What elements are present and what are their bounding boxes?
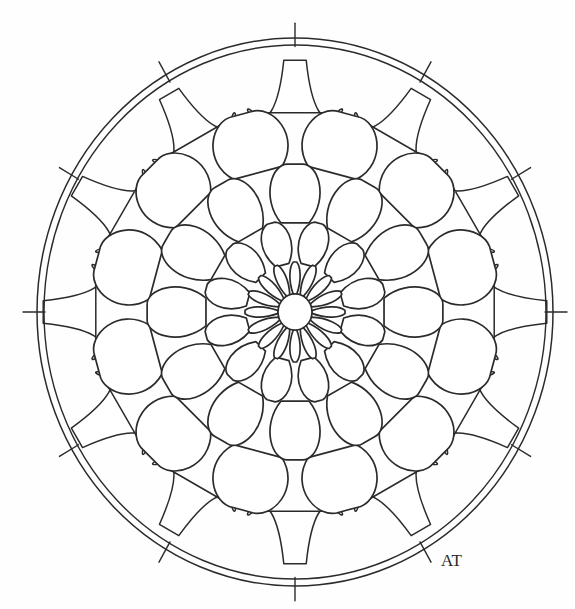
artboard: AT (0, 0, 575, 609)
ring-3-petal (147, 287, 206, 337)
ring-1-petal (245, 307, 278, 317)
ring-1-petal (290, 262, 300, 295)
ring-3-petal (384, 287, 443, 337)
ring-1-petal (312, 307, 345, 317)
mandala-artwork: AT (0, 0, 575, 609)
ring-3-petal (270, 164, 320, 223)
artist-signature: AT (441, 551, 462, 570)
ring-1-petal (290, 329, 300, 362)
center-disc (278, 294, 312, 330)
signature-layer: AT (441, 551, 462, 570)
ring-3-petal (270, 401, 320, 460)
